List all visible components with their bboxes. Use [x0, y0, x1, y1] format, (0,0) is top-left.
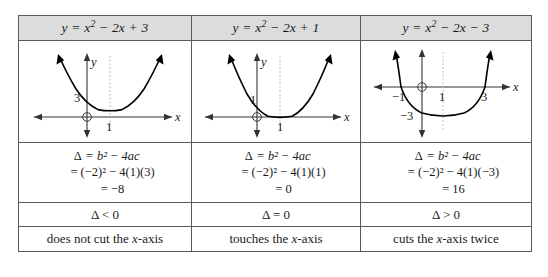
- y-axis-arrow-down: [254, 130, 260, 138]
- calc-cell-3: Δ= b² − 4ac = (−2)² − 4(1)(−3) = 16: [361, 143, 532, 203]
- y-axis-arrow-up: [84, 53, 90, 61]
- curve-arrow-left: [393, 50, 401, 60]
- root-left-label-3: −1: [392, 90, 405, 104]
- description-2: touches the x-axis: [229, 231, 322, 246]
- delta-symbol-3: Δ: [411, 148, 426, 165]
- curve-arrow-right: [325, 54, 333, 65]
- table-row-calculations: Δ= b² − 4ac = (−2)² − 4(1)(3) = −8 Δ= b²…: [19, 143, 532, 203]
- graph-cell-1: 3 1 x y: [19, 41, 192, 143]
- discriminant-sign-2: Δ = 0: [262, 207, 290, 222]
- header-cell-2: y = x2 − 2x + 1: [192, 16, 361, 41]
- x-axis-arrow-right: [333, 114, 341, 120]
- calc-line-2-1: Δ= b² − 4ac: [192, 148, 360, 165]
- x-axis-arrow-left: [374, 84, 382, 90]
- equation-1: y = x2 − 2x + 3: [62, 20, 149, 36]
- parabola-two-roots-figure: −1 1 3 −3 x: [364, 42, 528, 141]
- table-row-headers: y = x2 − 2x + 3 y = x2 − 2x + 1 y = x2 −…: [19, 16, 532, 41]
- x-axis-arrow-right: [164, 114, 172, 120]
- y-axis-arrow-down: [419, 130, 425, 138]
- calc-cell-2: Δ= b² − 4ac = (−2)² − 4(1)(1) = 0: [192, 143, 361, 203]
- x-axis-label-2: x: [343, 110, 350, 124]
- x-axis-arrow-left: [205, 114, 213, 120]
- x-axis-label-1: x: [174, 110, 181, 124]
- calc-cell-1: Δ= b² − 4ac = (−2)² − 4(1)(3) = −8: [19, 143, 192, 203]
- delta-symbol-2: Δ: [241, 148, 256, 165]
- discriminant-sign-3: Δ > 0: [432, 207, 460, 222]
- curve-arrow-right: [486, 50, 494, 60]
- table-row-signs: Δ < 0 Δ = 0 Δ > 0: [19, 203, 532, 227]
- discriminant-table: y = x2 − 2x + 3 y = x2 − 2x + 1 y = x2 −…: [18, 15, 532, 252]
- description-cell-1: does not cut the x-axis: [19, 227, 192, 252]
- curve-arrow-left: [228, 54, 236, 65]
- graph-cell-2: 1 1 x y: [192, 41, 361, 143]
- description-1: does not cut the x-axis: [47, 231, 163, 246]
- description-cell-2: touches the x-axis: [192, 227, 361, 252]
- y-intercept-label-1: 3: [74, 91, 80, 105]
- table-row-descriptions: does not cut the x-axis touches the x-ax…: [19, 227, 532, 252]
- calc-line-3-1: Δ= b² − 4ac: [361, 148, 531, 165]
- calc-line-2-2: = (−2)² − 4(1)(1): [192, 164, 360, 181]
- x-axis-label-3: x: [512, 80, 519, 94]
- calc-line-3-2: = (−2)² − 4(1)(−3): [361, 164, 531, 181]
- calc-line-1-2: = (−2)² − 4(1)(3): [19, 164, 191, 181]
- calc-line-1-1: Δ= b² − 4ac: [19, 148, 191, 165]
- sign-cell-2: Δ = 0: [192, 203, 361, 227]
- discriminant-sign-1: Δ < 0: [91, 207, 119, 222]
- x-axis-arrow-right: [502, 84, 510, 90]
- calc-line-1-3: = −8: [19, 181, 191, 198]
- header-cell-1: y = x2 − 2x + 3: [19, 16, 192, 41]
- x-axis-arrow-left: [34, 114, 42, 120]
- vertex-x-label-2: 1: [277, 120, 283, 134]
- graph-cell-3: −1 1 3 −3 x: [361, 41, 532, 143]
- vertex-x-label-1: 1: [106, 120, 112, 134]
- y-axis-arrow-up: [419, 49, 425, 57]
- y-intercept-label-3: −3: [400, 109, 413, 123]
- equation-2: y = x2 − 2x + 1: [233, 20, 320, 36]
- description-cell-3: cuts the x-axis twice: [361, 227, 532, 252]
- calc-line-3-3: = 16: [361, 181, 531, 198]
- y-axis-label-2: y: [259, 55, 267, 69]
- calc-line-2-3: = 0: [192, 181, 360, 198]
- y-intercept-label-2: 1: [250, 93, 256, 107]
- description-3: cuts the x-axis twice: [393, 231, 499, 246]
- y-axis-arrow-up: [254, 53, 260, 61]
- sign-cell-3: Δ > 0: [361, 203, 532, 227]
- table-row-graphs: 3 1 x y: [19, 41, 532, 143]
- sign-cell-1: Δ < 0: [19, 203, 192, 227]
- parabola-no-roots-figure: 3 1 x y: [22, 42, 188, 141]
- parabola-one-root-figure: 1 1 x y: [195, 42, 357, 141]
- page-root: y = x2 − 2x + 3 y = x2 − 2x + 1 y = x2 −…: [0, 0, 548, 277]
- root-right-label-3: 3: [481, 90, 487, 104]
- header-cell-3: y = x2 − 2x − 3: [361, 16, 532, 41]
- y-axis-arrow-down: [84, 130, 90, 138]
- delta-symbol-1: Δ: [70, 148, 85, 165]
- vertex-x-label-3: 1: [439, 90, 445, 104]
- y-axis-label-1: y: [89, 55, 97, 69]
- equation-3: y = x2 − 2x − 3: [403, 20, 490, 36]
